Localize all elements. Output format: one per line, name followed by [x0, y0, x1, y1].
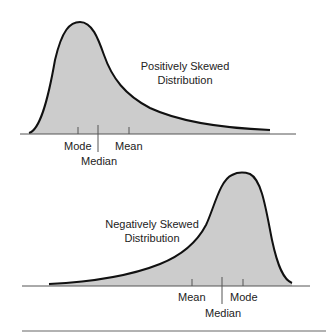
top-mode-label: Mode: [64, 140, 92, 152]
positive-skew-title: Positively Skewed Distribution: [125, 59, 245, 87]
negative-skew-title-line1: Negatively Skewed: [92, 217, 212, 231]
positive-skew-title-line2: Distribution: [125, 73, 245, 87]
bottom-mode-label: Mode: [230, 291, 258, 303]
positive-skew-title-line1: Positively Skewed: [125, 59, 245, 73]
top-mean-label: Mean: [115, 140, 143, 152]
top-median-label: Median: [81, 155, 117, 167]
negative-skew-title: Negatively Skewed Distribution: [92, 217, 212, 245]
bottom-mean-label: Mean: [178, 291, 206, 303]
negative-skew-title-line2: Distribution: [92, 231, 212, 245]
bottom-median-label: Median: [205, 307, 241, 319]
skew-diagram: [0, 0, 326, 333]
